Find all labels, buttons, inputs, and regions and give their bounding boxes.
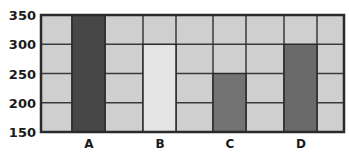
bar-a: [72, 15, 105, 132]
x-tick-label: A: [72, 137, 106, 151]
bar-b: [143, 44, 176, 132]
x-tick-label: D: [284, 137, 318, 151]
bar-d: [284, 44, 317, 132]
plot-area: [0, 0, 349, 155]
y-tick-label: 250: [0, 68, 36, 81]
x-tick-label: B: [143, 137, 177, 151]
bar-chart: 350300250200150 ABCD: [0, 0, 349, 155]
x-tick-label: C: [213, 137, 247, 151]
bar-c: [213, 74, 246, 133]
y-tick-label: 350: [0, 9, 36, 22]
y-tick-label: 200: [0, 97, 36, 110]
y-tick-label: 150: [0, 126, 36, 139]
y-tick-label: 300: [0, 38, 36, 51]
